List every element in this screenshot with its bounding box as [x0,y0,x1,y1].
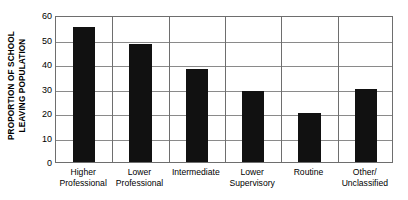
x-axis-category-label: LowerSupervisory [224,166,280,198]
vertical-gridline [281,17,282,162]
bar [355,89,378,163]
horizontal-gridline [56,115,392,116]
x-axis-category-label-line: Supervisory [224,178,280,189]
bar [129,44,152,162]
x-axis-category-label: HigherProfessional [55,166,111,198]
horizontal-gridline [56,66,392,67]
x-axis-category-label-line: Intermediate [168,167,224,178]
y-axis-tick-label: 40 [34,61,52,70]
y-axis-title-line-2: LEAVING POPULATION [17,31,28,140]
vertical-gridline [169,17,170,162]
y-axis-tick-labels: 0102030405060 [34,16,52,163]
x-axis-category-label-line: Lower [224,167,280,178]
x-axis-category-label-line: Routine [280,167,336,178]
x-axis-category-label: Other/Unclassified [337,166,393,198]
x-axis-category-label: Intermediate [168,166,224,198]
y-axis-tick-label: 0 [34,159,52,168]
y-axis-tick-label: 60 [34,12,52,21]
bar [298,113,321,162]
x-axis-category-label-line: Lower [111,167,167,178]
plot-area [55,16,393,163]
x-axis-category-label-line: Unclassified [337,178,393,189]
y-axis-title: PROPORTION OF SCHOOL LEAVING POPULATION [0,0,34,170]
x-axis-category-label-line: Professional [111,178,167,189]
y-axis-tick-label: 20 [34,110,52,119]
vertical-gridline [338,17,339,162]
x-axis-category-label-line: Higher [55,167,111,178]
x-axis-category-label-line: Professional [55,178,111,189]
vertical-gridline [112,17,113,162]
bar [242,91,265,162]
y-axis-tick-label: 50 [34,36,52,45]
vertical-gridline [225,17,226,162]
y-axis-title-line-1: PROPORTION OF SCHOOL [7,31,18,140]
horizontal-gridline [56,91,392,92]
bar-chart-figure: PROPORTION OF SCHOOL LEAVING POPULATION … [0,0,408,200]
x-axis-category-label-line: Other/ [337,167,393,178]
y-axis-tick-label: 10 [34,134,52,143]
x-axis-tick-labels: HigherProfessionalLowerProfessionalInter… [55,166,393,198]
horizontal-gridline [56,42,392,43]
y-axis-tick-label: 30 [34,85,52,94]
horizontal-gridline [56,140,392,141]
x-axis-category-label: LowerProfessional [111,166,167,198]
x-axis-category-label: Routine [280,166,336,198]
bar [73,27,96,162]
bar [186,69,209,162]
